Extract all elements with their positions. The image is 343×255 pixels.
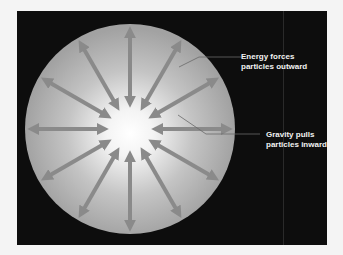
energy-label-line1: Energy forces	[241, 52, 307, 62]
gravity-label-line1: Gravity pulls	[266, 130, 327, 140]
gravity-label: Gravity pulls particles inward	[266, 130, 327, 150]
energy-label: Energy forces particles outward	[241, 52, 307, 72]
energy-label-line2: particles outward	[241, 62, 307, 72]
gravity-label-line2: particles inward	[266, 140, 327, 150]
star-equilibrium-diagram	[0, 0, 343, 255]
